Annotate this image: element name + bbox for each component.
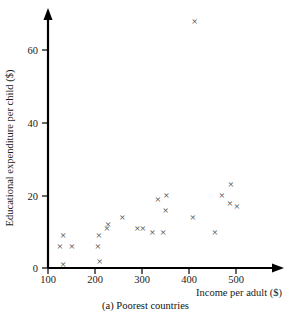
data-point: × <box>212 226 218 238</box>
data-point: × <box>96 229 102 241</box>
data-point: × <box>60 258 66 270</box>
y-tick-label-40: 40 <box>28 118 39 129</box>
y-axis <box>44 8 53 268</box>
x-tick-label-400: 400 <box>181 274 197 285</box>
data-point: × <box>97 255 103 267</box>
data-point: × <box>95 240 101 252</box>
data-point: × <box>227 197 233 209</box>
x-tick-label-200: 200 <box>87 274 103 285</box>
data-point: × <box>69 240 75 252</box>
data-point: × <box>105 218 111 230</box>
y-tick-label-60: 60 <box>28 45 39 56</box>
data-point-layer: ×××××××××××××××××××××××× <box>57 15 240 270</box>
x-tick-label-500: 500 <box>228 274 244 285</box>
x-axis-arrowhead <box>272 264 284 273</box>
scatter-plot-figure: 60 40 20 0 100 200 300 400 500 Income pe… <box>0 0 291 317</box>
data-point: × <box>234 200 240 212</box>
data-point: × <box>219 189 225 201</box>
y-axis-title: Educational expenditure per child ($) <box>4 69 16 226</box>
y-tick-label-20: 20 <box>28 191 39 202</box>
data-point: × <box>155 193 161 205</box>
y-axis-arrowhead <box>44 8 53 20</box>
data-point: × <box>228 178 234 190</box>
data-point: × <box>149 226 155 238</box>
x-axis-title: Income per adult ($) <box>196 287 283 299</box>
data-point: × <box>163 189 169 201</box>
x-tick-label-100: 100 <box>40 274 56 285</box>
y-tick-label-0: 0 <box>33 263 38 274</box>
data-point: × <box>190 211 196 223</box>
x-axis <box>48 264 284 273</box>
plot-canvas: 60 40 20 0 100 200 300 400 500 Income pe… <box>0 0 291 317</box>
x-tick-label-300: 300 <box>134 274 150 285</box>
data-point: × <box>162 204 168 216</box>
data-point: × <box>140 222 146 234</box>
data-point: × <box>119 211 125 223</box>
data-point: × <box>192 15 198 27</box>
data-point: × <box>57 240 63 252</box>
figure-caption: (a) Poorest countries <box>0 300 291 311</box>
data-point: × <box>160 226 166 238</box>
